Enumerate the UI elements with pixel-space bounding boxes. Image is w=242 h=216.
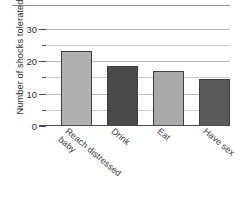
y-tick-major: [39, 61, 46, 62]
y-tick-label: 20: [27, 56, 37, 67]
bars-layer: [46, 22, 230, 126]
y-tick-label: 10: [27, 88, 37, 99]
y-tick-major: [39, 29, 46, 30]
bar: [199, 79, 230, 126]
x-axis-labels: Reach distressedbabyDrinkEatHave sex: [46, 126, 242, 216]
bar: [107, 66, 138, 126]
bar: [153, 71, 184, 126]
y-tick-major: [39, 94, 46, 95]
y-tick-label: 30: [27, 23, 37, 34]
y-axis-title: Number of shocks tolerated: [15, 0, 25, 117]
top-divider-rule: [12, 5, 230, 6]
y-tick-label: 0: [32, 121, 37, 132]
x-tick-label: Have sex: [201, 126, 236, 158]
x-tick-label: Eat: [155, 126, 172, 143]
bar: [61, 51, 92, 126]
bar-chart-figure: Number of shocks tolerated 0102030 Reach…: [0, 0, 242, 216]
y-tick-major: [39, 126, 46, 127]
x-tick-label: Drink: [109, 126, 132, 148]
plot-area: 0102030: [46, 22, 230, 126]
